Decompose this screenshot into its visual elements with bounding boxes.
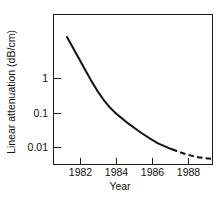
y-tick-label-0.01: 0.01	[28, 141, 49, 153]
y-axis-title: Linear attenuation (dB/cm)	[5, 30, 17, 154]
x-tick-label-1984: 1984	[105, 166, 129, 178]
x-tick-label-1986: 1986	[141, 166, 165, 178]
data-curve-solid-segment	[67, 37, 172, 149]
x-axis-ticks	[81, 158, 189, 165]
y-tick-label-0.1: 0.1	[33, 107, 48, 119]
x-tick-label-1988: 1988	[177, 166, 201, 178]
attenuation-line-chart: 1 0.1 0.01 1982 1984 1986 1988 Year Line…	[0, 0, 219, 197]
y-axis-ticks	[54, 79, 61, 148]
data-curve-dashed-segment	[172, 149, 212, 159]
x-axis-title: Year	[109, 180, 131, 192]
chart-figure: 1 0.1 0.01 1982 1984 1986 1988 Year Line…	[0, 0, 219, 197]
x-tick-label-1982: 1982	[69, 166, 93, 178]
plot-frame-border	[54, 15, 213, 165]
y-tick-label-1: 1	[42, 72, 48, 84]
